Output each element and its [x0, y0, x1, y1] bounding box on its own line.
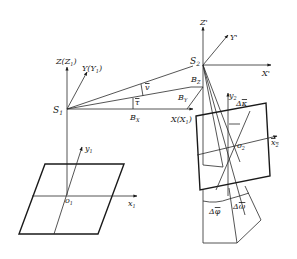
- label-x2: x2: [271, 138, 279, 148]
- label-o1: o1: [65, 196, 73, 206]
- label-axis-z-left: Z(Z1): [55, 57, 77, 67]
- label-axis-y-left: Y(Y1): [82, 64, 102, 74]
- label-x1: x1: [128, 199, 136, 209]
- phi-arc: [203, 199, 229, 202]
- label-s2: S2: [190, 56, 200, 67]
- right-coordinate-system: S2 Z' Y' X' BZ BY o2 x2 y2 Δκ Δφ Δω: [177, 18, 279, 243]
- label-o2: o2: [237, 141, 245, 151]
- label-axis-z-right: Z': [199, 18, 208, 27]
- axis-y-right: [203, 35, 228, 65]
- label-delta-omega: Δω: [232, 202, 246, 211]
- image-plane-left: [19, 164, 124, 234]
- angle-v-marker: [141, 84, 143, 96]
- left-coordinate-system: S1 Z(Z1) Y(Y1) BX v τ X(X1) o1 x1 y1: [19, 57, 193, 234]
- ray-s2-d: [203, 165, 223, 167]
- label-axis-x-right: X': [261, 69, 270, 78]
- label-axis-y-right: Y': [230, 33, 237, 42]
- label-s1: S1: [53, 105, 63, 116]
- ray-s1-bz: [67, 87, 191, 109]
- label-angle-v: v: [145, 83, 150, 92]
- ray-s2-a: [203, 65, 223, 167]
- image-y-axis-left: [54, 147, 82, 234]
- label-y1: y1: [84, 144, 93, 154]
- phi-omega-divider: [229, 188, 237, 243]
- label-axis-x-left: X(X1): [170, 115, 192, 125]
- ray-s2-c: [203, 65, 245, 215]
- label-by: BY: [177, 93, 188, 103]
- label-delta-kappa: Δκ: [235, 99, 248, 108]
- label-angle-tau: τ: [135, 98, 140, 107]
- label-bx: BX: [129, 113, 140, 123]
- label-bz: BZ: [190, 75, 201, 85]
- baseline-diag: [187, 87, 203, 109]
- label-delta-phi: Δφ: [208, 207, 221, 216]
- relative-orientation-diagram: S1 Z(Z1) Y(Y1) BX v τ X(X1) o1 x1 y1 S2 …: [0, 0, 297, 259]
